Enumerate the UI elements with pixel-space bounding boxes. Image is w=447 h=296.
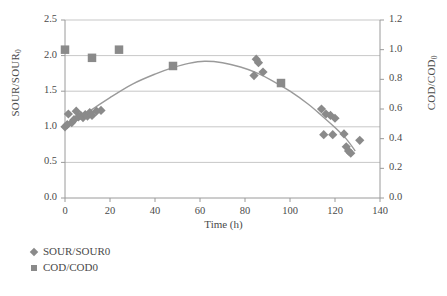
y-axis-right-title-subscript: 0 (430, 55, 439, 59)
x-axis-tick-label: 40 (138, 205, 172, 216)
data-point-diamond (258, 67, 267, 76)
data-point-diamond (339, 129, 348, 138)
marker-glyph (30, 248, 38, 256)
x-axis-tick-label: 100 (273, 205, 307, 216)
trend-line (65, 61, 355, 151)
x-axis-tick-label: 60 (183, 205, 217, 216)
x-axis-tick-label: 0 (48, 205, 82, 216)
y-axis-right-tick-label: 0.2 (389, 161, 419, 172)
x-axis-tick-label: 120 (318, 205, 352, 216)
chart-legend: SOUR/SOUR0COD/COD0 (28, 243, 110, 275)
y-axis-left-tick-label: 0.5 (27, 155, 57, 166)
y-axis-right-tick-label: 0.6 (389, 102, 419, 113)
y-axis-right-tick-label: 1.2 (389, 13, 419, 24)
y-axis-left-tick-label: 1.5 (27, 84, 57, 95)
data-point-square (115, 45, 124, 54)
y-axis-right-tick-label: 0.8 (389, 72, 419, 83)
data-point-diamond (328, 130, 337, 139)
legend-item: COD/COD0 (28, 259, 110, 275)
y-axis-right-tick-label: 1.0 (389, 43, 419, 54)
legend-item-label: COD/COD0 (43, 259, 98, 275)
legend-square-icon (28, 259, 40, 275)
x-axis-title: Time (h) (0, 218, 447, 230)
y-axis-left-title-base: SOUR/SOUR (9, 53, 21, 117)
x-axis-tick-label: 80 (228, 205, 262, 216)
x-axis-tick-label: 20 (93, 205, 127, 216)
x-axis-tick-label: 140 (363, 205, 397, 216)
data-point-diamond (249, 71, 258, 80)
legend-item: SOUR/SOUR0 (28, 243, 110, 259)
y-axis-left-tick-label: 0.0 (27, 191, 57, 202)
y-axis-right-tick-label: 0.0 (389, 191, 419, 202)
y-axis-left-tick-label: 1.0 (27, 120, 57, 131)
data-point-square (277, 79, 286, 88)
data-point-square (169, 62, 178, 70)
y-axis-right-title-base: COD/COD (425, 59, 437, 110)
y-axis-right-title: COD/COD0 (425, 23, 439, 143)
data-point-diamond (319, 130, 328, 139)
y-axis-left-tick-label: 2.5 (27, 13, 57, 24)
legend-item-label: SOUR/SOUR0 (43, 243, 110, 259)
y-axis-right-tick-label: 0.4 (389, 132, 419, 143)
y-axis-left-title: SOUR/SOUR0 (9, 23, 23, 143)
marker-glyph (31, 265, 37, 271)
chart-figure: SOUR/SOUR0 COD/COD0 Time (h) 0.00.51.01.… (0, 0, 447, 296)
data-point-square (61, 45, 70, 54)
y-axis-left-title-subscript: 0 (14, 49, 23, 53)
legend-diamond-icon (28, 243, 40, 259)
data-point-diamond (355, 136, 364, 145)
data-point-square (88, 54, 97, 63)
y-axis-left-tick-label: 2.0 (27, 49, 57, 60)
